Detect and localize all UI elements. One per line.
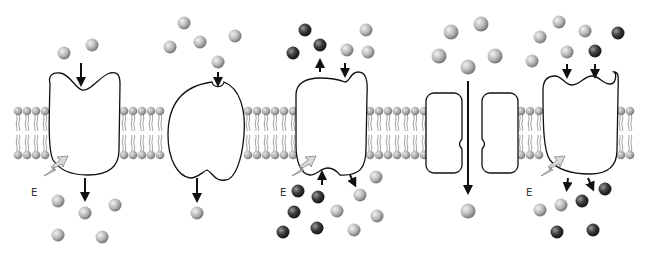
arrow-diag-icon bbox=[350, 175, 354, 183]
molecule-light bbox=[109, 199, 122, 212]
molecule-light bbox=[461, 204, 476, 219]
antiport-protein bbox=[296, 72, 367, 175]
molecule-light bbox=[52, 229, 65, 242]
molecule-light bbox=[194, 36, 207, 49]
molecule-dark bbox=[287, 47, 300, 60]
molecule-light bbox=[191, 207, 204, 220]
molecule-light bbox=[488, 49, 503, 64]
molecule-dark bbox=[312, 191, 325, 204]
channel-protein-right bbox=[482, 93, 518, 173]
energy-label: E bbox=[280, 187, 286, 198]
molecule-light bbox=[331, 205, 344, 218]
molecule-light bbox=[360, 24, 373, 37]
molecule-light bbox=[579, 25, 592, 38]
molecule-light bbox=[444, 25, 459, 40]
molecule-dark bbox=[311, 222, 324, 235]
molecule-dark bbox=[612, 27, 625, 40]
molecule-light bbox=[432, 49, 447, 64]
molecule-light bbox=[96, 231, 109, 244]
molecule-light bbox=[534, 31, 547, 44]
arrow-down-icon bbox=[567, 178, 568, 187]
molecule-dark bbox=[288, 206, 301, 219]
molecule-dark bbox=[589, 45, 602, 58]
molecule-dark bbox=[599, 183, 612, 196]
membrane-transport-diagram: E E bbox=[0, 0, 649, 255]
molecule-light bbox=[341, 44, 354, 57]
molecule-light bbox=[555, 199, 568, 212]
molecule-light bbox=[561, 46, 574, 59]
molecule-light bbox=[354, 189, 367, 202]
molecule-light bbox=[348, 224, 361, 237]
molecule-dark bbox=[314, 39, 327, 52]
molecule-dark bbox=[299, 24, 312, 37]
molecule-light bbox=[553, 16, 566, 29]
molecule-light bbox=[58, 47, 71, 60]
molecule-light bbox=[229, 30, 242, 43]
molecule-light bbox=[526, 55, 539, 68]
carrier-protein bbox=[168, 82, 244, 180]
molecule-light bbox=[461, 60, 476, 75]
energy-label: E bbox=[526, 187, 532, 198]
molecule-dark bbox=[277, 226, 290, 239]
molecule-light bbox=[371, 210, 384, 223]
molecule-light bbox=[474, 17, 489, 32]
channel-protein-left bbox=[426, 93, 462, 173]
molecule-light bbox=[52, 195, 65, 208]
panel-primary-active-transport: E bbox=[31, 39, 122, 244]
molecule-light bbox=[370, 171, 383, 184]
molecule-light bbox=[164, 41, 177, 54]
molecule-dark bbox=[587, 224, 600, 237]
panel-antiport-transport: E bbox=[277, 24, 384, 239]
energy-label: E bbox=[31, 187, 37, 198]
molecule-dark bbox=[292, 185, 305, 198]
molecule-light bbox=[212, 56, 225, 69]
panel-carrier-diffusion bbox=[164, 17, 245, 220]
molecule-dark bbox=[576, 195, 589, 208]
molecule-light bbox=[362, 46, 375, 59]
molecule-light bbox=[178, 17, 191, 30]
molecule-light bbox=[79, 207, 92, 220]
arrow-diag-icon bbox=[588, 178, 592, 187]
symport-protein bbox=[543, 72, 618, 174]
molecule-dark bbox=[551, 226, 564, 239]
panel-channel-diffusion bbox=[426, 17, 518, 219]
molecule-light bbox=[86, 39, 99, 52]
molecule-light bbox=[534, 204, 547, 217]
